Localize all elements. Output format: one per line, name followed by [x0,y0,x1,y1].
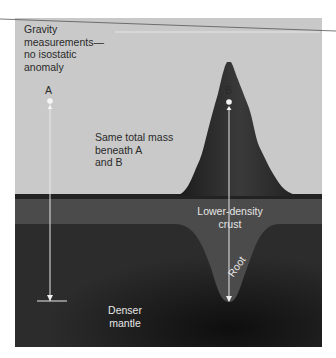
point-b-label: B [225,84,232,97]
mass-label: Same total mass beneath A and B [95,131,173,169]
point-a-label: A [45,84,52,97]
isostasy-diagram: Gravity measurements— no isostatic anoma… [15,18,322,347]
mantle-label: Denser mantle [105,304,145,329]
marker-b-icon [226,99,232,105]
mountain [175,62,305,196]
mantle-layer [15,224,322,347]
marker-a-icon [47,98,53,104]
pointer-line [0,0,336,40]
crust-label: Lower-density crust [185,205,275,230]
